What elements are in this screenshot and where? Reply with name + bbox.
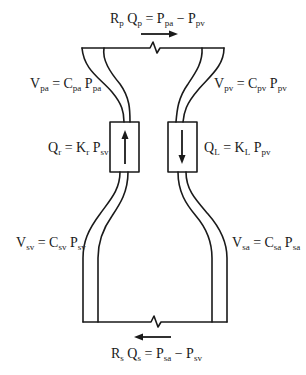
systemic-venous-tube-outer	[83, 172, 120, 322]
pulmonary-venous-tube-inner	[176, 48, 202, 122]
systemic-venous-volume-label: Vsv = Csv Psv	[16, 236, 86, 250]
left-heart-flow-label: QL = KL Ppv	[204, 141, 270, 155]
pulmonary-resistance-label: Rp Qp = Ppa − Ppv	[110, 12, 205, 26]
arrow-head-down-icon	[179, 155, 186, 164]
arrow-head-right-icon	[169, 31, 178, 38]
pulmonary-arterial-volume-label: Vpa = Cpa Ppa	[30, 77, 101, 91]
circulation-diagram	[0, 0, 306, 375]
arrow-head-up-icon	[122, 130, 129, 139]
systemic-arterial-volume-label: Vsa = Csa Psa	[232, 236, 300, 250]
arrow-head-left-icon	[134, 334, 143, 341]
systemic-arterial-tube-outer	[186, 172, 227, 322]
pulmonary-venous-volume-label: Vpv = Cpv Ppv	[214, 77, 287, 91]
pulmonary-arterial-tube-inner	[104, 48, 130, 122]
systemic-resistance-line	[83, 316, 227, 327]
systemic-arterial-tube-inner	[178, 172, 212, 322]
systemic-resistance-label: Rs Qs = Psa − Psv	[111, 347, 202, 361]
right-heart-flow-label: Qr = Kr Psv	[48, 141, 108, 155]
